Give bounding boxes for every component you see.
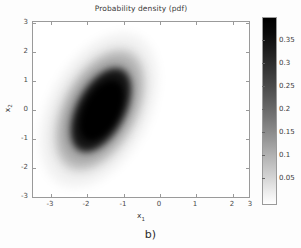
tick-y-left xyxy=(33,52,36,53)
y-tick-label: 1 xyxy=(10,76,28,84)
colorbar-tick xyxy=(262,132,265,133)
tick-x-top xyxy=(124,22,125,25)
colorbar-tick xyxy=(262,86,265,87)
tick-y-left xyxy=(33,139,36,140)
figure-panel: Probability density (pdf) xyxy=(0,0,301,248)
tick-y-left xyxy=(33,197,36,198)
x-axis-label-sub: 1 xyxy=(141,216,145,222)
tick-x-top xyxy=(87,22,88,25)
colorbar-tick-label: 0.2 xyxy=(279,105,290,113)
colorbar-tick xyxy=(262,40,265,41)
tick-y-left xyxy=(33,110,36,111)
figure-caption: b) xyxy=(0,228,301,241)
x-tick-label: -1 xyxy=(113,200,133,208)
x-tick-label: 3 xyxy=(240,200,260,208)
x-tick-label: 2 xyxy=(222,200,242,208)
chart-title: Probability density (pdf) xyxy=(32,4,250,13)
colorbar-tick-label: 0.15 xyxy=(279,128,295,136)
tick-x-top xyxy=(160,22,161,25)
density-core xyxy=(58,58,144,162)
density-halo-mid xyxy=(36,34,163,185)
tick-x-bottom xyxy=(87,194,88,197)
colorbar xyxy=(262,17,277,205)
colorbar-tick-label: 0.35 xyxy=(279,36,295,44)
tick-x-bottom xyxy=(124,194,125,197)
tick-y-right xyxy=(246,52,249,53)
x-tick-label: -2 xyxy=(76,200,96,208)
colorbar-tick-label: 0.3 xyxy=(279,59,290,67)
tick-y-right xyxy=(246,168,249,169)
tick-x-bottom xyxy=(160,194,161,197)
y-axis-label-base: x xyxy=(3,108,12,112)
colorbar-tick-label: 0.25 xyxy=(279,82,295,90)
y-tick-label: -3 xyxy=(10,192,28,200)
tick-y-right xyxy=(246,81,249,82)
x-tick-label: 1 xyxy=(185,200,205,208)
tick-y-right xyxy=(246,23,249,24)
tick-y-left xyxy=(33,81,36,82)
colorbar-tick xyxy=(262,109,265,110)
density-peak xyxy=(74,77,130,146)
x-axis-label: x1 xyxy=(32,211,250,222)
tick-y-right xyxy=(246,110,249,111)
colorbar-tick xyxy=(262,155,265,156)
y-tick-label: -1 xyxy=(10,134,28,142)
tick-y-left xyxy=(33,23,36,24)
colorbar-tick xyxy=(262,63,265,64)
x-tick-label: -3 xyxy=(40,200,60,208)
y-axis-label: x2 xyxy=(3,96,14,120)
y-tick-label: -2 xyxy=(10,163,28,171)
tick-x-bottom xyxy=(196,194,197,197)
tick-x-bottom xyxy=(233,194,234,197)
y-axis-label-sub: 2 xyxy=(7,104,13,108)
tick-y-right xyxy=(246,139,249,140)
colorbar-tick-label: 0.1 xyxy=(279,151,290,159)
tick-y-right xyxy=(246,197,249,198)
tick-x-top xyxy=(51,22,52,25)
plot-area xyxy=(32,21,250,198)
y-tick-label: 2 xyxy=(10,47,28,55)
tick-x-bottom xyxy=(51,194,52,197)
tick-x-top xyxy=(233,22,234,25)
x-tick-label: 0 xyxy=(149,200,169,208)
y-tick-label: 3 xyxy=(10,18,28,26)
tick-x-top xyxy=(196,22,197,25)
colorbar-tick-label: 0.05 xyxy=(279,174,295,182)
colorbar-tick xyxy=(262,178,265,179)
density-halo-outer xyxy=(32,21,183,198)
tick-y-left xyxy=(33,168,36,169)
